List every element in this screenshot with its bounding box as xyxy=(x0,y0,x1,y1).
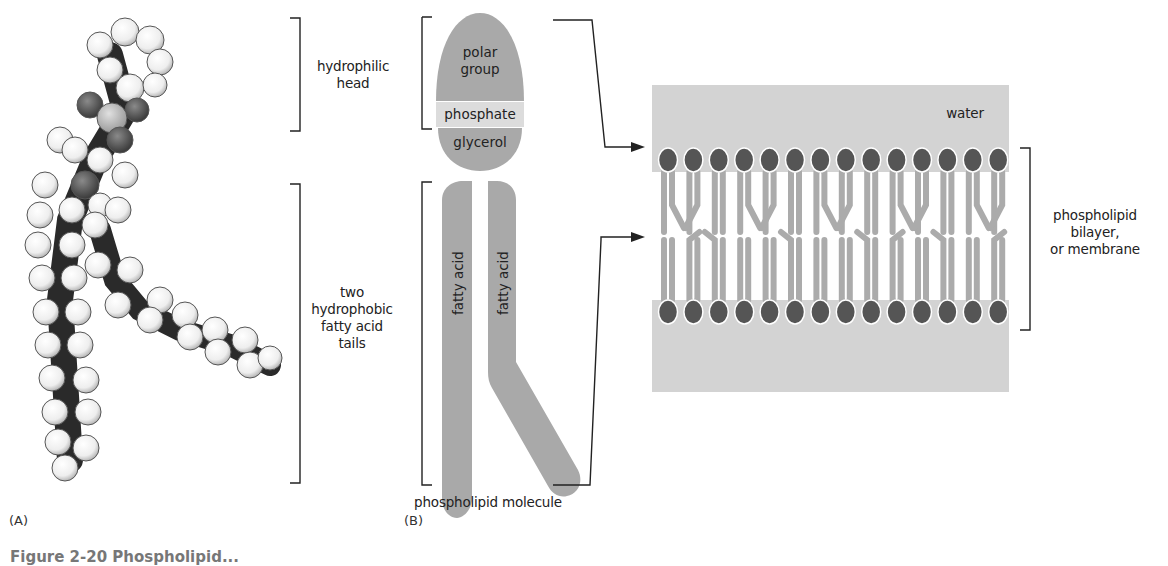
label-fatty-acid-2: fatty acid xyxy=(495,243,511,323)
bracket-bilayer xyxy=(1020,148,1030,330)
space-filling-model xyxy=(25,18,282,481)
label-glycerol: glycerol xyxy=(436,134,524,151)
bilayer-diagram xyxy=(652,85,1009,392)
label-fatty-acid-1: fatty acid xyxy=(450,243,466,323)
figure-caption: Figure 2-20 Phospholipid... xyxy=(10,548,239,566)
arrowhead-head-icon xyxy=(631,142,645,152)
label-hydrophobic-tails: two hydrophobic fatty acid tails xyxy=(302,284,402,352)
arrow-line-head xyxy=(553,20,633,147)
label-phospholipid-bilayer: phospholipid bilayer, or membrane xyxy=(1035,207,1155,258)
panel-tag-a: (A) xyxy=(9,513,28,528)
bracket-hydrophobic-tails xyxy=(290,184,300,483)
label-polar-group: polar group xyxy=(436,44,524,78)
label-phosphate: phosphate xyxy=(432,106,528,123)
arrowhead-tails-icon xyxy=(631,232,645,242)
label-water: water xyxy=(935,105,995,122)
bracket-hydrophilic-head xyxy=(290,18,300,131)
label-hydrophilic-head: hydrophilic head xyxy=(308,58,398,92)
label-phospholipid-molecule: phospholipid molecule xyxy=(408,494,568,511)
panel-tag-b: (B) xyxy=(404,513,423,528)
